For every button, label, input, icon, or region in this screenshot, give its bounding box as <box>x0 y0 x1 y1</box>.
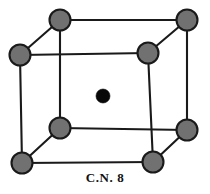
figure-caption: C.N. 8 <box>0 170 210 186</box>
body-center-atom <box>96 89 110 103</box>
edge-back-bottom <box>60 128 187 130</box>
edge-front-top <box>20 53 148 55</box>
corner-back-bottom-right <box>177 120 198 141</box>
edge-front-right <box>148 53 153 162</box>
corner-back-top-right <box>177 10 198 31</box>
corner-back-top-left <box>50 10 71 31</box>
edge-front-left <box>20 55 22 163</box>
unit-cell-diagram <box>0 0 210 194</box>
corner-back-bottom-left <box>50 118 71 139</box>
edge-front-bottom <box>22 162 153 163</box>
corner-front-top-right <box>138 43 159 64</box>
bcc-unit-cell-figure: C.N. 8 <box>0 0 210 194</box>
corner-front-top-left <box>10 45 31 66</box>
